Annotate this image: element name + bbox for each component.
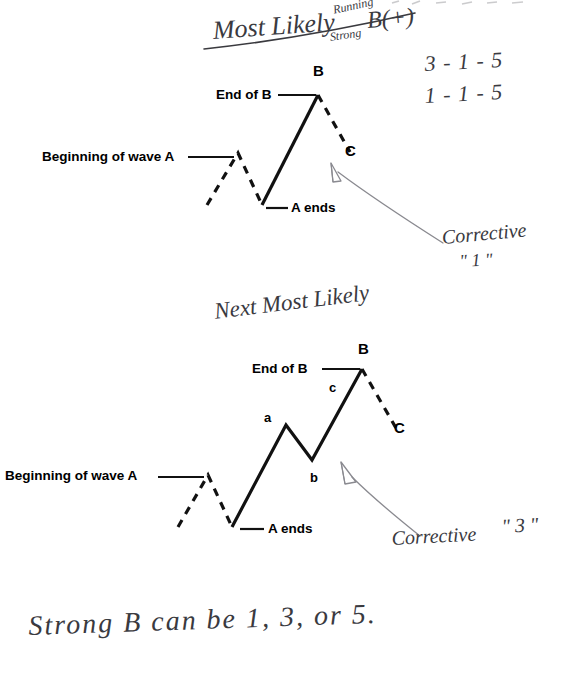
bottom-label-b-peak: B <box>358 341 369 356</box>
bottom-label-a-sub: a <box>264 411 271 424</box>
note-b-plus: B(+) <box>366 4 415 32</box>
top-chart-group <box>188 95 350 208</box>
top-label-a-ends: A ends <box>291 201 336 215</box>
bottom-wave-a-dashed <box>178 475 232 527</box>
top-label-end-of-b: End of B <box>216 88 272 102</box>
pencil-arrow-top <box>331 163 443 243</box>
note-corrective-bottom-1: Corrective <box>391 524 477 548</box>
bottom-label-end-of-b: End of B <box>252 362 308 376</box>
note-ratio-line-2: 1 - 1 - 5 <box>424 81 504 107</box>
top-wave-b-solid <box>262 95 318 205</box>
bottom-chart-group <box>158 369 396 529</box>
diagram-page: B C End of B A ends Beginning of wave A … <box>0 0 562 677</box>
top-label-c-point: C <box>345 143 356 158</box>
bottom-label-c-point: C <box>394 420 405 435</box>
top-label-beginning-of-wave-a: Beginning of wave A <box>42 150 174 164</box>
bottom-label-a-ends: A ends <box>268 522 313 536</box>
top-wave-a-dashed <box>207 153 262 205</box>
note-corrective-top-2: " 1 " <box>459 250 493 270</box>
pencil-arrow-bottom <box>341 462 420 536</box>
bottom-label-c-sub: c <box>329 381 336 394</box>
bottom-wave-abc-solid <box>232 369 362 527</box>
note-ratio-line-1: 3 - 1 - 5 <box>424 49 504 75</box>
top-label-b-peak: B <box>313 63 324 78</box>
bottom-label-b-sub: b <box>310 471 318 484</box>
bottom-wave-c-dashed <box>362 369 396 428</box>
note-corrective-bottom-2: " 3 " <box>501 514 539 536</box>
bottom-label-beginning-of-wave-a: Beginning of wave A <box>5 469 137 483</box>
